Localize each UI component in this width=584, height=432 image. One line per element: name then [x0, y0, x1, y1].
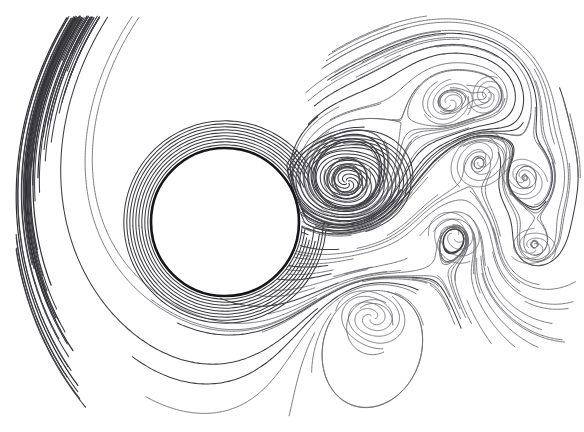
cylinder-obstacle: [151, 148, 299, 296]
flow-field-canvas: [0, 0, 584, 432]
flow-visualization-figure: [0, 0, 584, 432]
